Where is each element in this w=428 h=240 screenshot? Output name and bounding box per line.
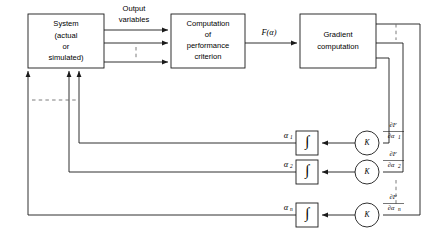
gradient-numerator-3: ∂F (389, 193, 396, 200)
gradient-block-line-1: Gradient (323, 30, 353, 39)
channel-row-1: K ∂F ∂α 1 ∫ α 1 (79, 71, 404, 155)
performance-block-line-4: criterion (194, 52, 221, 61)
channel-row-3: K ∂F ∂α n ∫ α n (28, 71, 404, 227)
system-block-line-3: or (63, 42, 70, 51)
output-variables-line-1: Output (123, 4, 147, 13)
block-diagram-canvas: System (actual or simulated) Computation… (0, 0, 428, 240)
gradient-computation-block: Gradient computation (300, 14, 376, 68)
gain-label-2: K (363, 167, 370, 176)
gradient-block-line-2: computation (317, 42, 358, 51)
f-alpha-connection: F(α) (245, 28, 297, 43)
gain-label-3: K (363, 210, 370, 219)
gradient-denominator-sub-2: 2 (398, 163, 401, 169)
output-variable-arrows (104, 30, 168, 62)
system-block-line-2: (actual (55, 31, 78, 40)
channel-row-2: K ∂F ∂α 2 ∫ α 2 (69, 71, 404, 184)
alpha-label-2: α (284, 160, 289, 169)
system-block-line-4: simulated) (48, 53, 83, 62)
performance-block-line-3: performance (187, 41, 230, 50)
gradient-label-1: ∂F ∂α 1 (383, 121, 404, 140)
output-variables-label: Output variables (119, 4, 150, 24)
gradient-denominator-2: ∂α (388, 161, 395, 168)
diagram-svg: System (actual or simulated) Computation… (0, 0, 428, 240)
feedback-wire-1 (79, 71, 296, 143)
gradient-denominator-sub-3: n (398, 206, 401, 212)
performance-block-line-2: of (205, 30, 212, 39)
f-alpha-label: F(α) (260, 28, 276, 37)
performance-criterion-block: Computation of performance criterion (171, 14, 245, 68)
gradient-label-2: ∂F ∂α 2 (383, 150, 404, 169)
system-block: System (actual or simulated) (28, 14, 104, 68)
alpha-sub-3: n (290, 206, 293, 212)
gradient-denominator-sub-1: 1 (398, 134, 401, 140)
gradient-numerator-2: ∂F (389, 150, 396, 157)
system-block-line-1: System (53, 19, 78, 28)
gradient-output-path-3 (376, 58, 389, 143)
gradient-label-3: ∂F ∂α n (383, 193, 404, 212)
gain-label-1: K (363, 138, 370, 147)
gradient-output-path-1 (376, 24, 420, 215)
alpha-label-3: α (284, 203, 289, 212)
gradient-denominator-3: ∂α (388, 204, 395, 211)
alpha-label-1: α (284, 131, 289, 140)
alpha-sub-2: 2 (290, 163, 293, 169)
performance-block-line-1: Computation (186, 19, 229, 28)
alpha-sub-1: 1 (290, 134, 293, 140)
feedback-wire-2 (69, 71, 296, 172)
output-variables-line-2: variables (119, 15, 150, 24)
gradient-denominator-1: ∂α (388, 132, 395, 139)
gradient-numerator-1: ∂F (389, 121, 396, 128)
